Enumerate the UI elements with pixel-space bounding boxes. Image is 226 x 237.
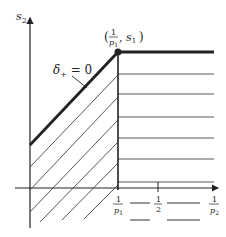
svg-text:): ) — [139, 30, 144, 44]
svg-text:1: 1 — [212, 195, 217, 204]
svg-text:1: 1 — [116, 195, 121, 204]
feasible-region-diagram: s2 δ+ = 0 ( 1 p1 , s1 ) 1 p1 1 2 1 p2 — [0, 0, 226, 237]
x-tick-label-1-over-2: 1 2 — [154, 195, 162, 214]
svg-text:,: , — [119, 31, 123, 44]
tick-dashes — [130, 203, 200, 220]
svg-text:1: 1 — [111, 28, 116, 37]
x-tick-label-1-over-p1: 1 p1 — [113, 195, 123, 216]
boundary-label: δ+ = 0 — [53, 63, 92, 79]
svg-text:s1: s1 — [126, 31, 136, 45]
svg-text:2: 2 — [156, 205, 161, 214]
x-tick-label-1-over-p2: 1 p2 — [209, 195, 219, 216]
svg-text:(: ( — [104, 30, 109, 44]
y-axis-label: s2 — [16, 10, 27, 25]
svg-text:p1: p1 — [114, 206, 123, 216]
kink-point — [115, 49, 122, 56]
svg-text:p2: p2 — [210, 206, 219, 216]
horizontal-hatching — [118, 74, 214, 182]
svg-text:1: 1 — [156, 195, 161, 204]
point-label: ( 1 p1 , s1 ) — [104, 28, 144, 48]
svg-text:p1: p1 — [109, 38, 118, 48]
label-leader — [72, 76, 87, 88]
